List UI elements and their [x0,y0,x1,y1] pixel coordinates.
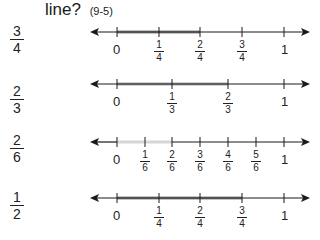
number-line-row-4: 12 0 14 24 34 1 [0,186,320,236]
number-line-row-2: 23 0 13 23 1 [0,72,320,117]
tick-label-0: 0 [113,152,120,167]
tick-label: 26 [167,150,177,173]
lesson-code: (9-5) [90,5,113,17]
tick-label: 16 [140,150,150,173]
tick-label-0: 0 [113,42,120,57]
tick-label: 23 [223,92,233,115]
tick-label-0: 0 [113,208,120,223]
tick-label-1: 1 [281,42,288,57]
tick-label: 36 [195,150,205,173]
tick-label-1: 1 [281,94,288,109]
tick-label: 14 [154,206,164,229]
number-line-row-1: 34 0 14 24 34 1 [0,20,320,65]
number-line [0,130,320,175]
tick-label: 24 [195,206,205,229]
number-line-row-3: 26 0 16 26 36 46 56 1 [0,130,320,175]
tick-label: 46 [223,150,233,173]
tick-label: 34 [237,40,247,63]
tick-label: 14 [154,40,164,63]
question-header: line? (9-5) [45,0,113,20]
tick-label-1: 1 [281,152,288,167]
tick-label-1: 1 [281,208,288,223]
tick-label: 13 [167,92,177,115]
tick-label: 24 [195,40,205,63]
tick-label-0: 0 [113,94,120,109]
number-line [0,72,320,117]
tick-label: 56 [251,150,261,173]
tick-label: 34 [237,206,247,229]
header-text: line? [45,0,81,19]
